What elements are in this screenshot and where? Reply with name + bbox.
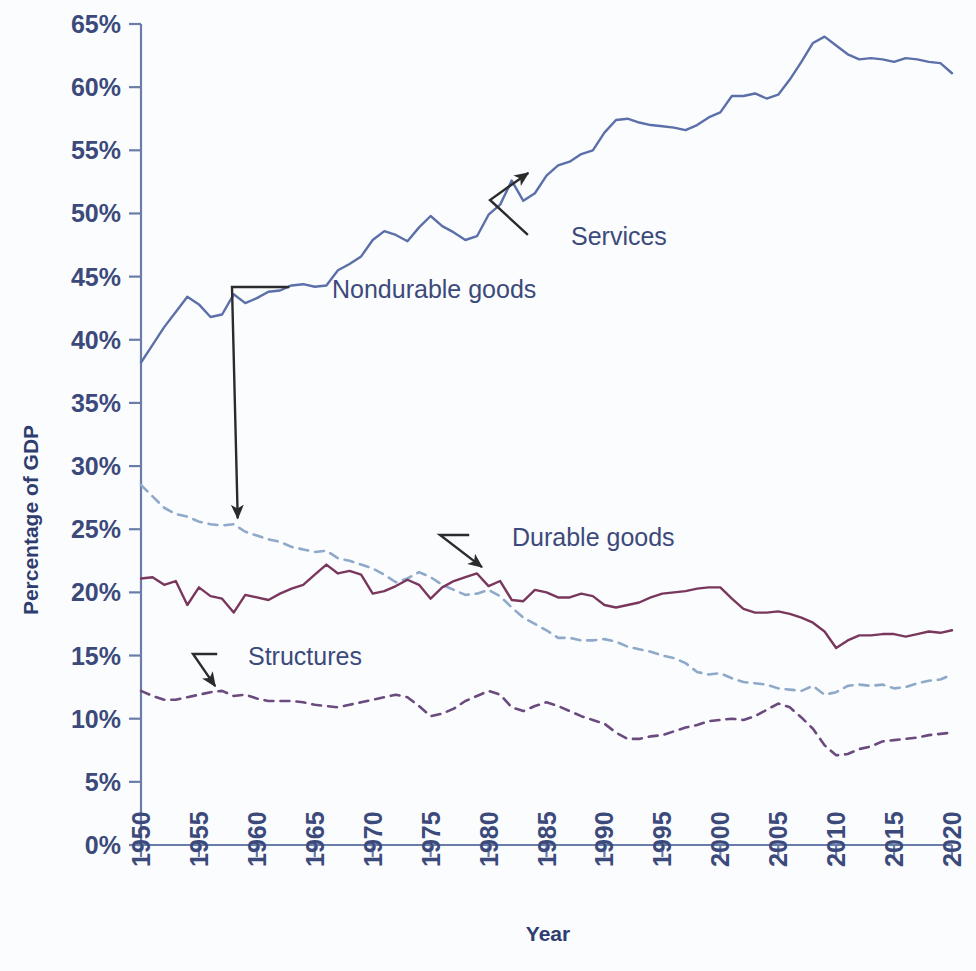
x-tick-label: 1980 (475, 811, 503, 867)
chart-container: 0%5%10%15%20%25%30%35%40%45%50%55%60%65%… (0, 0, 976, 971)
annotation-label-services: Services (571, 222, 667, 250)
x-tick-label: 2000 (706, 811, 734, 867)
annotation-label-structures: Structures (248, 642, 362, 670)
y-tick-label: 5% (85, 768, 121, 796)
y-tick-label: 35% (71, 389, 121, 417)
x-tick-labels: 1950195519601965197019751980198519901995… (127, 811, 966, 867)
series-line-services (141, 37, 952, 363)
x-tick-label: 2020 (938, 811, 966, 867)
x-tick-label: 2005 (764, 811, 792, 867)
annotations-group: ServicesNondurable goodsDurable goodsStr… (193, 174, 675, 686)
annotation-leader-nondurable-goods (232, 287, 288, 517)
y-tick-label: 10% (71, 705, 121, 733)
annotation-label-durable-goods: Durable goods (512, 523, 675, 551)
x-tick-label: 1990 (590, 811, 618, 867)
y-tick-label: 45% (71, 263, 121, 291)
annotation-label-nondurable-goods: Nondurable goods (332, 275, 536, 303)
x-tick-label: 1950 (127, 811, 155, 867)
x-tick-label: 1970 (359, 811, 387, 867)
x-tick-label: 2015 (880, 811, 908, 867)
y-tick-label: 0% (85, 831, 121, 859)
y-tick-label: 60% (71, 73, 121, 101)
y-tick-labels: 0%5%10%15%20%25%30%35%40%45%50%55%60%65% (71, 10, 121, 859)
x-tick-label: 2010 (822, 811, 850, 867)
y-axis-title: Percentage of GDP (19, 425, 42, 615)
annotation-leader-services (490, 174, 527, 234)
axis-spines (141, 24, 952, 845)
y-tick-label: 50% (71, 199, 121, 227)
series-line-structures (141, 691, 952, 755)
x-tick-label: 1955 (185, 811, 213, 867)
x-tick-label: 1965 (301, 811, 329, 867)
x-tick-label: 1985 (533, 811, 561, 867)
line-chart-svg: 0%5%10%15%20%25%30%35%40%45%50%55%60%65%… (0, 0, 976, 971)
y-tick-label: 25% (71, 515, 121, 543)
x-tick-label: 1975 (417, 811, 445, 867)
y-tick-label: 40% (71, 326, 121, 354)
axes-group (129, 24, 952, 857)
y-tick-label: 65% (71, 10, 121, 38)
x-tick-label: 1995 (648, 811, 676, 867)
x-tick-label: 1960 (243, 811, 271, 867)
y-tick-label: 20% (71, 578, 121, 606)
series-line-durable-goods (141, 565, 952, 648)
y-tick-label: 30% (71, 452, 121, 480)
annotation-leader-structures (193, 654, 216, 685)
y-tick-label: 15% (71, 642, 121, 670)
x-axis-title: Year (526, 922, 570, 945)
annotation-leader-durable-goods (440, 535, 481, 566)
y-tick-label: 55% (71, 136, 121, 164)
